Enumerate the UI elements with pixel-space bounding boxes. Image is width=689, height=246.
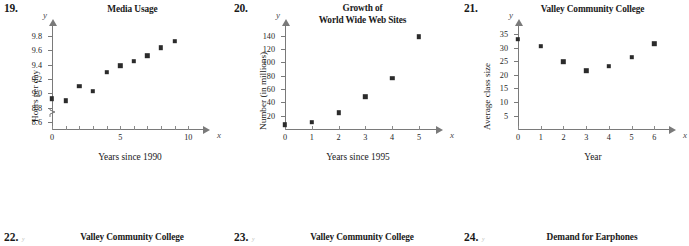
y-axis-letter-24: y <box>482 236 485 242</box>
y-tick-label: 9.6 <box>32 46 42 55</box>
chart-title-19: Media Usage <box>40 4 225 16</box>
problem-20: 20. Growth of World Wide Web Sites y x 2… <box>230 0 459 175</box>
x-tick <box>120 126 121 130</box>
y-tick-label: 9.8 <box>32 32 42 41</box>
x-tick-label: 5 <box>118 133 122 142</box>
y-tick: 100 <box>281 62 286 63</box>
problem-number-22: 22. <box>4 231 18 243</box>
x-tick <box>79 126 80 130</box>
x-tick-label: 10 <box>184 133 192 142</box>
x-axis-label-21: Year <box>584 152 601 162</box>
y-axis-line-20 <box>285 24 286 130</box>
x-axis-label-19: Years since 1990 <box>98 152 162 162</box>
data-point <box>629 55 633 59</box>
y-tick: 35 <box>514 34 519 35</box>
y-tick: 25 <box>514 61 519 62</box>
y-tick-label: 25 <box>500 57 508 66</box>
data-point <box>104 70 108 74</box>
x-tick <box>609 126 610 130</box>
y-axis-arrow-20 <box>282 19 290 26</box>
x-tick-label: 6 <box>652 133 656 142</box>
y-tick: 80 <box>281 76 286 77</box>
chart-title-22: Valley Community College <box>38 232 226 242</box>
y-tick: 9.2 <box>48 79 53 80</box>
data-point <box>173 39 177 43</box>
y-axis-letter-19: y <box>43 10 47 20</box>
problem-19: 19. Media Usage y x 8.68.89.09.29.49.69.… <box>0 0 229 175</box>
data-point <box>145 54 149 58</box>
data-point <box>584 68 588 72</box>
x-tick-label: 4 <box>607 133 611 142</box>
y-tick-label: 40 <box>267 98 275 107</box>
problem-number-24: 24. <box>464 231 478 243</box>
data-point <box>159 46 163 50</box>
x-tick <box>563 126 564 130</box>
y-tick: 5 <box>514 116 519 117</box>
y-tick-label: 20 <box>500 70 508 79</box>
y-axis-letter-23: y <box>252 236 255 242</box>
data-point <box>652 41 656 45</box>
data-point <box>363 94 367 98</box>
y-tick: 20 <box>281 116 286 117</box>
x-tick-label: 2 <box>337 133 341 142</box>
x-tick <box>188 126 189 130</box>
y-axis-label-21: Average class size <box>482 63 492 130</box>
x-axis-letter-20: x <box>450 130 454 140</box>
data-point <box>132 59 136 63</box>
problem-21: 21. Valley Community College y x 5101520… <box>460 0 689 175</box>
y-tick-label: 60 <box>267 85 275 94</box>
y-axis-letter-21: y <box>509 10 513 20</box>
axis-break-symbol-19 <box>49 108 57 117</box>
x-tick <box>654 126 655 130</box>
y-tick: 9.6 <box>48 50 53 51</box>
x-tick-label: 0 <box>516 133 520 142</box>
x-tick <box>107 126 108 130</box>
data-point <box>50 96 54 100</box>
x-tick <box>339 126 340 130</box>
x-axis-letter-19: x <box>217 130 221 140</box>
chart-title-20-line2: World Wide Web Sites <box>270 15 455 27</box>
y-tick: 9.0 <box>48 93 53 94</box>
x-tick-label: 5 <box>417 133 421 142</box>
x-axis-label-20: Years since 1995 <box>326 152 390 162</box>
x-tick <box>419 126 420 130</box>
x-axis-line-20 <box>285 129 441 130</box>
y-tick-label: 35 <box>500 30 508 39</box>
y-tick-label: 10 <box>500 97 508 106</box>
problem-number-19: 19. <box>4 2 18 14</box>
x-tick-label: 5 <box>630 133 634 142</box>
x-axis-line-19 <box>52 129 208 130</box>
y-tick-label: 80 <box>267 71 275 80</box>
data-point <box>91 89 95 93</box>
x-tick-label: 4 <box>390 133 394 142</box>
plot-area-19: y x 8.68.89.09.29.49.69.8 0510 <box>52 30 202 130</box>
data-point <box>118 64 122 68</box>
data-point <box>516 37 520 41</box>
data-point <box>561 59 565 63</box>
problem-number-21: 21. <box>464 2 478 14</box>
chart-title-20: Growth of World Wide Web Sites <box>270 3 455 26</box>
x-tick-label: 1 <box>539 133 543 142</box>
data-point <box>63 99 67 103</box>
problem-number-23: 23. <box>234 231 248 243</box>
y-axis-arrow-21 <box>515 19 523 26</box>
problem-number-20: 20. <box>234 2 248 14</box>
y-tick: 120 <box>281 49 286 50</box>
chart-title-24: Demand for Earphones <box>498 232 686 242</box>
data-point <box>390 76 394 80</box>
x-tick <box>365 126 366 130</box>
x-tick <box>52 126 53 130</box>
data-point <box>539 44 543 48</box>
x-tick <box>586 126 587 130</box>
x-tick <box>161 126 162 130</box>
x-tick-label: 1 <box>310 133 314 142</box>
chart-title-20-line1: Growth of <box>270 3 455 15</box>
x-axis-letter-21: x <box>683 130 687 140</box>
y-axis-label-19: Hours per day <box>30 70 40 122</box>
x-axis-arrow-21 <box>669 126 676 134</box>
x-tick <box>147 126 148 130</box>
x-axis-arrow-20 <box>436 126 443 134</box>
x-tick <box>392 126 393 130</box>
x-tick-label: 3 <box>363 133 367 142</box>
y-axis-letter-20: y <box>276 10 280 20</box>
